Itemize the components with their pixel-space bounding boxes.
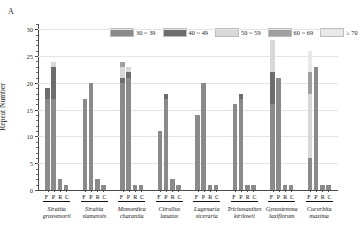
- y-tick-minor: [36, 185, 38, 186]
- x-subcategory-labels: FPRC: [193, 194, 220, 202]
- x-tick-mark: [328, 190, 329, 192]
- x-tick-mark: [66, 190, 67, 192]
- y-tick-label: 10: [27, 133, 34, 140]
- x-subcategory-label: F: [268, 194, 275, 202]
- x-tick-mark: [204, 190, 205, 192]
- y-tick-minor: [36, 158, 38, 159]
- bar-segment: [276, 78, 281, 190]
- x-tick-mark: [129, 190, 130, 192]
- x-tick-mark: [54, 190, 55, 192]
- bar-segment: [120, 67, 125, 78]
- bar-segment: [270, 40, 275, 72]
- bar-segment: [195, 115, 200, 190]
- x-tick-mark: [253, 190, 254, 192]
- x-subcategory-label: R: [132, 194, 139, 202]
- x-tick-mark: [198, 190, 199, 192]
- bar-segment: [45, 99, 50, 190]
- y-tick-mark: [35, 136, 38, 137]
- x-tick-mark: [172, 190, 173, 192]
- bar-lagenaria-p: [201, 83, 206, 190]
- y-tick-label: 20: [27, 79, 34, 86]
- bar-segment: [233, 104, 238, 190]
- y-tick-label: 25: [27, 53, 34, 60]
- y-tick-mark: [35, 190, 38, 191]
- x-tick-mark: [135, 190, 136, 192]
- x-tick-mark: [60, 190, 61, 192]
- x-subcategory-label: F: [231, 194, 238, 202]
- x-subcategory-label: P: [87, 194, 94, 202]
- bar-segment: [45, 88, 50, 99]
- bar-segment: [89, 83, 94, 190]
- bar-siraitia-r: [58, 179, 63, 190]
- y-tick-label: 5: [30, 160, 33, 167]
- x-subcategory-labels: FPRC: [231, 194, 258, 202]
- bar-segment: [314, 67, 319, 190]
- y-tick-minor: [36, 35, 38, 36]
- x-subcategory-label: F: [306, 194, 313, 202]
- x-tick-mark: [160, 190, 161, 192]
- x-subcategory-label: P: [275, 194, 282, 202]
- y-tick-minor: [36, 61, 38, 62]
- x-tick-mark: [247, 190, 248, 192]
- x-subcategory-label: R: [169, 194, 176, 202]
- bar-siraitia-r: [95, 179, 100, 190]
- plot-area: 051015202530: [38, 24, 338, 190]
- y-tick-minor: [36, 72, 38, 73]
- x-subcategory-label: P: [312, 194, 319, 202]
- y-tick-minor: [36, 45, 38, 46]
- bar-segment: [51, 67, 56, 99]
- x-subcategory-label: P: [50, 194, 57, 202]
- x-subcategory-labels: FPRC: [118, 194, 145, 202]
- x-tick-mark: [166, 190, 167, 192]
- x-axis-line: [38, 190, 338, 191]
- x-subcategory-label: P: [125, 194, 132, 202]
- bar-citrullus-f: [158, 131, 163, 190]
- bar-gynostemma-f: [270, 40, 275, 190]
- x-tick-mark: [322, 190, 323, 192]
- bar-siraitia-f: [83, 99, 88, 190]
- x-subcategory-labels: FPRC: [306, 194, 333, 202]
- x-tick-mark: [97, 190, 98, 192]
- y-tick-minor: [36, 174, 38, 175]
- bar-segment: [95, 179, 100, 190]
- x-subcategory-label: C: [139, 194, 146, 202]
- y-tick-minor: [36, 131, 38, 132]
- gridline: [38, 29, 338, 30]
- x-subcategory-label: R: [319, 194, 326, 202]
- y-tick-minor: [36, 153, 38, 154]
- y-tick-minor: [36, 24, 38, 25]
- x-tick-mark: [123, 190, 124, 192]
- bar-segment: [164, 99, 169, 190]
- x-tick-mark: [279, 190, 280, 192]
- bar-segment: [58, 179, 63, 190]
- bar-segment: [120, 83, 125, 190]
- x-subcategory-labels: FPRC: [156, 194, 183, 202]
- bar-siraitia-p: [51, 61, 56, 190]
- x-tick-mark: [235, 190, 236, 192]
- x-tick-mark: [141, 190, 142, 192]
- x-subcategory-labels: FPRC: [268, 194, 295, 202]
- y-tick-minor: [36, 99, 38, 100]
- y-tick-minor: [36, 179, 38, 180]
- x-tick-mark: [273, 190, 274, 192]
- x-subcategory-label: F: [43, 194, 50, 202]
- x-tick-mark: [210, 190, 211, 192]
- y-tick-minor: [36, 94, 38, 95]
- y-tick-minor: [36, 147, 38, 148]
- bar-segment: [158, 131, 163, 190]
- bar-momordica-p: [126, 67, 131, 190]
- y-tick-minor: [36, 67, 38, 68]
- bar-citrullus-r: [170, 179, 175, 190]
- x-subcategory-label: F: [81, 194, 88, 202]
- y-tick-mark: [35, 110, 38, 111]
- x-subcategory-label: F: [193, 194, 200, 202]
- x-subcategory-labels: FPRC: [81, 194, 108, 202]
- x-subcategory-label: F: [118, 194, 125, 202]
- y-tick-mark: [35, 163, 38, 164]
- bar-lagenaria-f: [195, 115, 200, 190]
- x-subcategory-label: P: [162, 194, 169, 202]
- bar-segment: [239, 99, 244, 190]
- bar-citrullus-p: [164, 94, 169, 190]
- bar-cucurbita-p: [314, 67, 319, 190]
